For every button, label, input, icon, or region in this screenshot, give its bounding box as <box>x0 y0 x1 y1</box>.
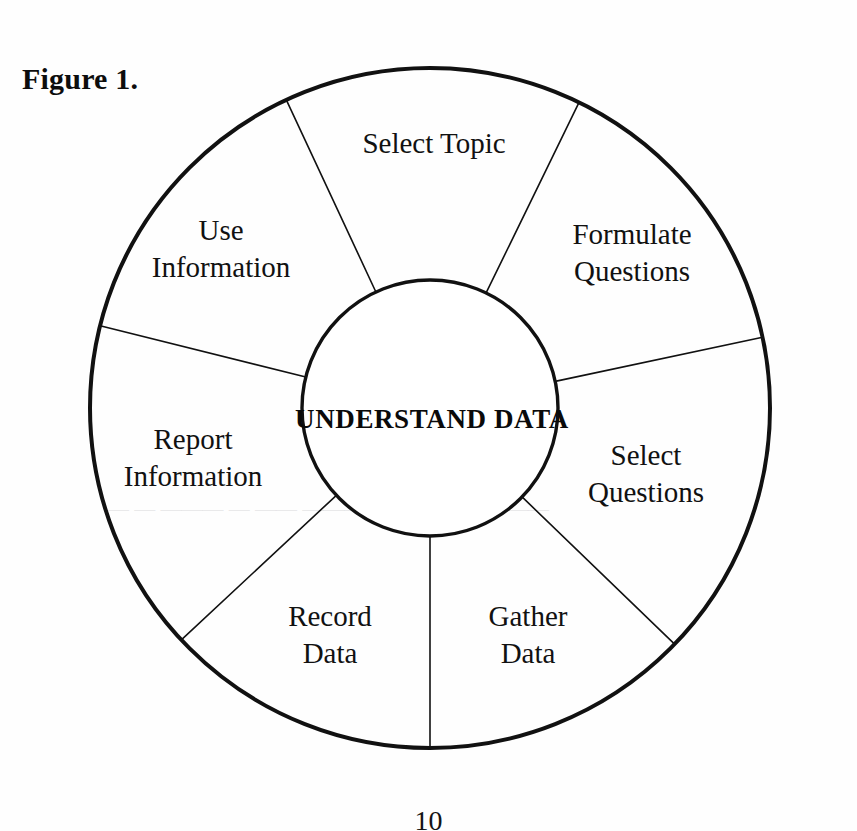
segment-label-formulate-questions: FormulateQuestions <box>572 217 691 286</box>
document-page: Figure 1. — — ——— — —— ———— —— —— ——— UN… <box>0 0 857 831</box>
segment-label-select-questions: SelectQuestions <box>588 438 704 507</box>
page-number: 10 <box>0 806 857 831</box>
hub-label: UNDERSTAND DATA <box>295 404 569 434</box>
cycle-wheel-diagram: UNDERSTAND DATASelect TopicFormulateQues… <box>0 0 857 831</box>
segment-label-record-data: RecordData <box>288 599 372 668</box>
spoke-divider-select-questions <box>555 337 762 381</box>
spoke-divider-use-information <box>100 326 306 377</box>
segment-label-use-information: UseInformation <box>152 213 291 282</box>
segment-label-select-topic: Select Topic <box>362 127 505 159</box>
segment-label-gather-data: GatherData <box>489 599 568 668</box>
segment-label-report-information: ReportInformation <box>124 422 263 491</box>
